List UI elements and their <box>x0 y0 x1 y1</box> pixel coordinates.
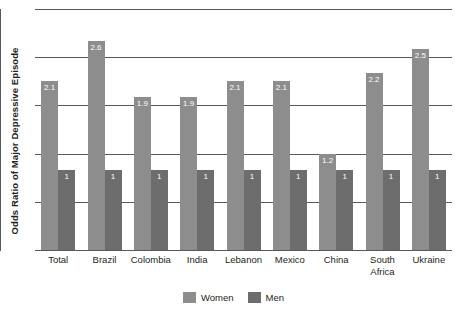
bar-value-label: 1 <box>151 172 168 182</box>
bar-value-label: 1.9 <box>134 99 151 109</box>
bar-value-label: 1 <box>58 172 75 182</box>
bar-value-label: 1 <box>429 172 446 182</box>
bar-value-label: 1 <box>336 172 353 182</box>
bar-value-label: 2.2 <box>366 75 383 85</box>
bar-value-label: 2.1 <box>41 83 58 93</box>
bar-value-label: 1.2 <box>319 156 336 166</box>
bar-women: 2.6 <box>88 41 105 250</box>
bar-value-label: 1 <box>244 172 261 182</box>
bar-men: 1 <box>429 170 446 250</box>
bar-men: 1 <box>151 170 168 250</box>
bar-value-label: 1 <box>290 172 307 182</box>
bar-value-label: 1 <box>105 172 122 182</box>
bar-group: 2.21 <box>366 9 400 250</box>
legend-swatch-men-icon <box>248 292 261 303</box>
bar-women: 1.9 <box>180 97 197 250</box>
bar-men: 1 <box>58 170 75 250</box>
bar-value-label: 1 <box>383 172 400 182</box>
bar-value-label: 1 <box>197 172 214 182</box>
bar-men: 1 <box>105 170 122 250</box>
legend-swatch-women-icon <box>183 292 196 303</box>
bar-group: 1.21 <box>319 9 353 250</box>
gridline <box>35 250 452 251</box>
bar-women: 1.2 <box>319 154 336 250</box>
bar-group: 2.11 <box>41 9 75 250</box>
x-tick-label: South Africa <box>359 254 405 277</box>
bar-men: 1 <box>336 170 353 250</box>
bar-group: 2.51 <box>412 9 446 250</box>
legend-label-women: Women <box>201 292 234 303</box>
bar-women: 2.5 <box>412 49 429 250</box>
x-tick-label: China <box>313 254 359 266</box>
chart-legend: Women Men <box>0 292 467 303</box>
legend-label-men: Men <box>266 292 284 303</box>
bar-value-label: 2.1 <box>227 83 244 93</box>
bar-men: 1 <box>290 170 307 250</box>
x-tick-label: India <box>174 254 220 266</box>
chart-container: Odds Ratio of Major Depressive Episode 2… <box>0 0 467 316</box>
bar-group: 2.61 <box>88 9 122 250</box>
y-axis-title: Odds Ratio of Major Depressive Episode <box>3 11 25 271</box>
bar-men: 1 <box>383 170 400 250</box>
bar-women: 2.1 <box>41 81 58 250</box>
bar-men: 1 <box>244 170 261 250</box>
bar-group: 1.91 <box>134 9 168 250</box>
x-tick-label: Brazil <box>81 254 127 266</box>
x-tick-label: Ukraine <box>406 254 452 266</box>
bar-value-label: 1.9 <box>180 99 197 109</box>
x-tick-label: Colombia <box>128 254 174 266</box>
bar-group: 2.11 <box>227 9 261 250</box>
legend-entry-women: Women <box>183 292 234 303</box>
bar-women: 2.2 <box>366 73 383 250</box>
bar-women: 2.1 <box>273 81 290 250</box>
bar-value-label: 2.5 <box>412 51 429 61</box>
y-axis-line <box>0 9 1 251</box>
plot-area: 2.112.611.911.912.112.111.212.212.51 <box>35 9 452 250</box>
bar-value-label: 2.6 <box>88 43 105 53</box>
x-tick-label: Lebanon <box>220 254 266 266</box>
x-tick-label: Total <box>35 254 81 266</box>
bar-women: 1.9 <box>134 97 151 250</box>
x-tick-label: Mexico <box>267 254 313 266</box>
bar-group: 2.11 <box>273 9 307 250</box>
bar-women: 2.1 <box>227 81 244 250</box>
bar-men: 1 <box>197 170 214 250</box>
bar-group: 1.91 <box>180 9 214 250</box>
x-axis-tick-labels: TotalBrazilColombiaIndiaLebanonMexicoChi… <box>35 254 452 288</box>
bar-value-label: 2.1 <box>273 83 290 93</box>
legend-entry-men: Men <box>248 292 284 303</box>
